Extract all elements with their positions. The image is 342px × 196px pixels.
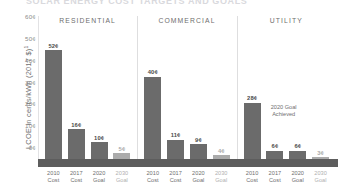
x-axis-tick-label: 2030Goal (213, 170, 230, 192)
x-axis-labels: 2010Cost2017Cost2020Goal2030Goal2010Cost… (38, 170, 336, 192)
x-label-line2: Cost (144, 177, 161, 184)
bar-value-label: 52¢ (48, 43, 58, 49)
bar[interactable] (244, 103, 261, 164)
x-label-line1: 2017 (269, 170, 282, 176)
x-axis-tick-label: 2017Cost (68, 170, 85, 192)
x-label-line2: Cost (68, 177, 85, 184)
bar-slot[interactable]: 52¢ (45, 33, 62, 164)
panel-title-utility: UTILITY (237, 17, 336, 24)
bar-value-label: 6¢ (272, 143, 279, 149)
bar-slot[interactable]: 10¢ (91, 33, 108, 164)
x-axis-tick-label: 2030Goal (113, 170, 130, 192)
x-axis-tick-label: 2010Cost (45, 170, 62, 192)
y-axis-tick-40: 40¢ (17, 56, 36, 63)
bar-slot[interactable]: 6¢ (289, 33, 306, 164)
chart-container: SOLAR ENERGY COST TARGETS AND GOALS LCOE… (0, 0, 342, 196)
x-axis-tick-label: 2020Goal (190, 170, 207, 192)
bar-slot[interactable]: 16¢ (68, 33, 85, 164)
x-label-line2: Goal (289, 177, 306, 184)
bar-slot[interactable]: 40¢ (144, 33, 161, 164)
bar-value-label: 10¢ (94, 135, 104, 141)
bar-slot[interactable]: 9¢ (190, 33, 207, 164)
chart-title-clipped: SOLAR ENERGY COST TARGETS AND GOALS (26, 0, 316, 5)
x-label-line1: 2010 (246, 170, 259, 176)
bar-slot[interactable]: 5¢ (113, 33, 130, 164)
x-label-line2: Cost (266, 177, 283, 184)
x-label-line1: 2017 (70, 170, 83, 176)
x-axis-tick-label: 2010Cost (244, 170, 261, 192)
x-label-line2: Goal (91, 177, 108, 184)
x-axis-tick-label: 2030Goal (312, 170, 329, 192)
x-label-line1: 2030 (314, 170, 327, 176)
bar-value-label: 3¢ (317, 150, 324, 156)
y-axis-tick-0: 0¢ (17, 144, 36, 151)
x-label-line1: 2020 (192, 170, 205, 176)
x-label-line2: Goal (113, 177, 130, 184)
bar[interactable] (144, 77, 161, 164)
y-axis-tick-50: 50¢ (17, 34, 36, 41)
panel-title-residential: RESIDENTIAL (38, 17, 137, 24)
y-axis-tick-10: 10¢ (17, 122, 36, 129)
bar-value-label: 5¢ (119, 146, 126, 152)
bar-value-label: 16¢ (71, 122, 81, 128)
panel-residential: RESIDENTIAL52¢16¢10¢5¢ (38, 16, 137, 164)
bar-slot[interactable]: 6¢ (266, 33, 283, 164)
y-axis-tick-20: 20¢ (17, 100, 36, 107)
bar-value-label: 11¢ (171, 132, 181, 138)
bar-value-label: 4¢ (218, 148, 225, 154)
panel-utility: UTILITY2020 Goal Achieved28¢6¢6¢3¢ (237, 16, 336, 164)
baseline-strip (38, 159, 338, 167)
x-label-line2: Goal (190, 177, 207, 184)
bar-value-label: 28¢ (247, 95, 257, 101)
bar-slot[interactable]: 28¢ (244, 33, 261, 164)
x-label-line2: Goal (213, 177, 230, 184)
bar-slot[interactable]: 11¢ (167, 33, 184, 164)
x-label-line1: 2010 (146, 170, 159, 176)
x-axis-tick-label: 2020Goal (289, 170, 306, 192)
x-label-line1: 2030 (215, 170, 228, 176)
bar-value-label: 40¢ (148, 69, 158, 75)
bar-value-label: 9¢ (195, 137, 202, 143)
x-label-line2: Cost (45, 177, 62, 184)
y-axis-tick-30: 30¢ (17, 78, 36, 85)
panel-title-commercial: COMMERCIAL (137, 17, 236, 24)
y-axis-tick-60: 60¢ (17, 13, 36, 20)
x-label-line1: 2020 (291, 170, 304, 176)
bar-group: 40¢11¢9¢4¢ (141, 33, 232, 164)
x-axis-tick-label: 2017Cost (266, 170, 283, 192)
chart-title: SOLAR ENERGY COST TARGETS AND GOALS (26, 0, 316, 5)
x-label-group: 2010Cost2017Cost2020Goal2030Goal (237, 170, 336, 192)
x-label-line2: Goal (312, 177, 329, 184)
x-label-line1: 2020 (93, 170, 106, 176)
x-label-line2: Cost (167, 177, 184, 184)
bar-value-label: 6¢ (294, 143, 301, 149)
x-label-line2: Cost (244, 177, 261, 184)
y-axis-ticks: 0¢10¢20¢30¢40¢50¢60¢ (17, 16, 36, 164)
bar-slot[interactable]: 4¢ (213, 33, 230, 164)
x-label-group: 2010Cost2017Cost2020Goal2030Goal (137, 170, 236, 192)
chart-panels: RESIDENTIAL52¢16¢10¢5¢COMMERCIAL40¢11¢9¢… (38, 16, 336, 164)
x-label-group: 2010Cost2017Cost2020Goal2030Goal (38, 170, 137, 192)
x-axis-tick-label: 2020Goal (91, 170, 108, 192)
x-axis-tick-label: 2010Cost (144, 170, 161, 192)
bar[interactable] (45, 50, 62, 164)
x-label-line1: 2010 (47, 170, 60, 176)
panel-commercial: COMMERCIAL40¢11¢9¢4¢ (137, 16, 236, 164)
bar-slot[interactable]: 3¢ (312, 33, 329, 164)
bar-group: 52¢16¢10¢5¢ (42, 33, 133, 164)
bar-group: 28¢6¢6¢3¢ (241, 33, 332, 164)
x-axis-tick-label: 2017Cost (167, 170, 184, 192)
x-label-line1: 2017 (169, 170, 182, 176)
x-label-line1: 2030 (116, 170, 129, 176)
